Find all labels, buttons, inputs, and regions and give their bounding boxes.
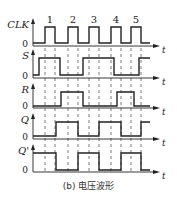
time-axis-label: t [162, 138, 166, 148]
time-axis-label: t [162, 107, 166, 117]
y-axis-arrow-icon [31, 83, 35, 89]
x-axis-arrow-icon [153, 137, 160, 141]
time-axis-label: t [162, 77, 166, 87]
zero-label: 0 [22, 71, 28, 81]
x-axis-arrow-icon [153, 76, 160, 80]
x-axis-arrow-icon [153, 106, 160, 110]
clock-pulse-number: 1 [47, 14, 53, 25]
clock-pulse-number: 2 [70, 14, 76, 25]
clock-pulse-number: 5 [133, 14, 139, 25]
signal-label: R [20, 84, 29, 95]
y-axis-arrow-icon [31, 18, 35, 24]
clock-pulse-number: 3 [91, 14, 97, 25]
signal-label: S [22, 50, 29, 61]
y-axis-arrow-icon [31, 113, 35, 119]
x-axis-arrow-icon [153, 44, 160, 48]
waveform-q [33, 122, 150, 136]
x-axis-arrow-icon [153, 170, 160, 174]
y-axis-arrow-icon [31, 49, 35, 55]
zero-label: 0 [22, 132, 28, 142]
zero-label: 0 [22, 39, 28, 49]
clock-pulse-number: 4 [113, 14, 119, 25]
signal-label: Q [21, 114, 29, 125]
zero-label: 0 [22, 101, 28, 111]
waveform-r [33, 92, 150, 106]
waveform-q-bar [33, 153, 150, 170]
waveform-clk [33, 27, 150, 43]
timing-diagram: CLK0tS0tR0tQ0tQ'0t12345 [0, 0, 177, 202]
zero-label: 0 [22, 165, 28, 175]
signal-label: Q' [18, 145, 29, 156]
y-axis-arrow-icon [31, 144, 35, 150]
figure-caption: (b) 电压波形 [0, 179, 177, 192]
time-axis-label: t [162, 45, 166, 55]
signal-label: CLK [7, 19, 29, 30]
waveform-s [33, 58, 150, 75]
